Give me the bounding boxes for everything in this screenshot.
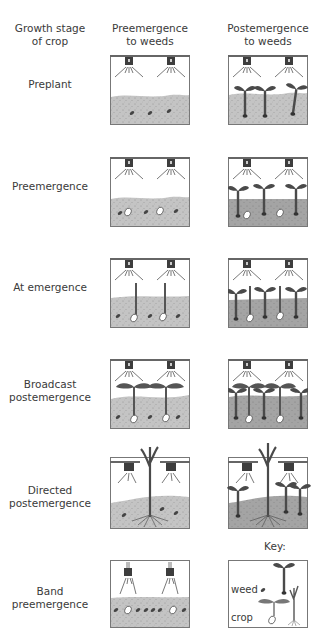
- row-label-at-emergence: At emergence: [0, 281, 100, 294]
- header-text: Postemergence: [222, 22, 314, 35]
- row-label-broadcast: Broadcastpostemergence: [0, 378, 100, 404]
- label-text: Band: [0, 585, 100, 598]
- label-text: Directed: [0, 484, 100, 497]
- header-postemergence-weeds: Postemergence to weeds: [222, 22, 314, 48]
- panel-preemergence-postemergence: [228, 157, 308, 227]
- panel-at-emergence-preemergence: [110, 258, 190, 328]
- label-text: Broadcast: [0, 378, 100, 391]
- label-text: At emergence: [0, 281, 100, 294]
- panel-preplant-postemergence: [228, 55, 308, 125]
- key-title: Key:: [255, 540, 295, 552]
- header-text: of crop: [2, 35, 98, 48]
- key-panel: weed crop: [228, 560, 308, 628]
- header-text: to weeds: [105, 35, 195, 48]
- panel-at-emergence-postemergence: [228, 258, 308, 328]
- row-label-band: Bandpreemergence: [0, 585, 100, 611]
- panel-directed-postemergence: [228, 457, 308, 527]
- row-label-preemergence: Preemergence: [0, 180, 100, 193]
- key-weed-label: weed: [231, 584, 258, 595]
- label-text: preemergence: [0, 598, 100, 611]
- panel-broadcast-preemergence: [110, 359, 190, 429]
- label-text: postemergence: [0, 391, 100, 404]
- panel-broadcast-postemergence: [228, 359, 308, 429]
- row-label-directed: Directedpostemergence: [0, 484, 100, 510]
- panel-band-preemergence: [110, 560, 190, 630]
- key-crop-label: crop: [231, 612, 253, 623]
- header-growth-stage: Growth stage of crop: [2, 22, 98, 48]
- header-text: Preemergence: [105, 22, 195, 35]
- panel-preemergence-preemergence: [110, 157, 190, 227]
- label-text: Preplant: [0, 78, 100, 91]
- header-text: Growth stage: [2, 22, 98, 35]
- header-text: to weeds: [222, 35, 314, 48]
- label-text: postemergence: [0, 497, 100, 510]
- row-label-preplant: Preplant: [0, 78, 100, 91]
- panel-directed-preemergence: [110, 457, 190, 527]
- panel-preplant-preemergence: [110, 55, 190, 125]
- header-preemergence-weeds: Preemergence to weeds: [105, 22, 195, 48]
- label-text: Preemergence: [0, 180, 100, 193]
